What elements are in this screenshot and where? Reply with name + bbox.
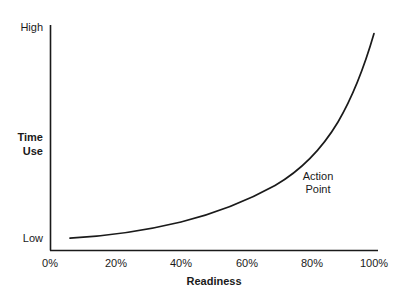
- y-axis-min-label: Low: [0, 232, 43, 244]
- x-axis-tick-20: 20%: [86, 257, 146, 269]
- x-axis-title: Readiness: [50, 275, 378, 287]
- x-axis-tick-60: 60%: [217, 257, 277, 269]
- annotation-line-1: Action: [288, 170, 348, 183]
- data-curve-time-use: [70, 34, 374, 239]
- y-axis-title-line-1: Time: [0, 130, 43, 144]
- y-axis-title-line-2: Use: [0, 144, 43, 158]
- chart-container: High Low Time Use 0% 20% 40% 60% 80% 100…: [0, 0, 404, 295]
- x-axis-tick-0: 0%: [20, 257, 80, 269]
- y-axis-title: Time Use: [0, 130, 43, 158]
- chart-plot-area: [0, 0, 404, 295]
- x-axis-tick-100: 100%: [344, 257, 404, 269]
- x-axis-tick-40: 40%: [151, 257, 211, 269]
- x-axis-tick-80: 80%: [282, 257, 342, 269]
- y-axis-max-label: High: [0, 21, 43, 33]
- curve-annotation-action-point: Action Point: [288, 170, 348, 196]
- annotation-line-2: Point: [288, 183, 348, 196]
